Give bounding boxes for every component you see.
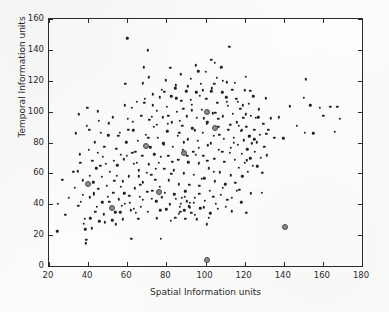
data-point [207, 144, 209, 146]
data-point [234, 82, 236, 84]
data-point [203, 177, 205, 179]
data-point [164, 191, 166, 193]
highlighted-data-point [109, 205, 115, 211]
data-point [201, 109, 203, 111]
data-point [97, 188, 99, 190]
data-point [240, 201, 242, 203]
data-point [156, 217, 158, 219]
x-axis-tick [323, 19, 324, 23]
data-point [186, 200, 188, 202]
data-point [195, 153, 197, 155]
data-point [234, 181, 236, 183]
data-point [312, 132, 314, 134]
data-point [85, 239, 87, 241]
data-point [170, 95, 172, 97]
data-point [197, 162, 199, 164]
y-axis-tick [49, 235, 53, 236]
data-point [245, 159, 247, 161]
data-point [79, 162, 81, 164]
data-point [209, 142, 211, 144]
data-point [198, 147, 200, 149]
data-point [131, 106, 133, 108]
data-point [193, 214, 195, 216]
data-point [83, 222, 85, 224]
data-point [157, 136, 159, 138]
data-point [213, 170, 215, 172]
y-axis-tick-label: 60 [33, 167, 44, 177]
data-point [257, 108, 259, 110]
data-point [134, 151, 136, 153]
data-point [226, 105, 228, 107]
y-axis-tick [49, 204, 53, 205]
data-point [103, 146, 105, 148]
data-point [159, 156, 161, 158]
data-point [77, 113, 79, 115]
data-point [166, 130, 168, 132]
data-point [165, 79, 167, 81]
x-axis-label: Spatial Information units [48, 287, 363, 297]
data-point [201, 132, 203, 134]
data-point [168, 179, 170, 181]
data-point [101, 201, 103, 203]
data-point [186, 138, 188, 140]
data-point [147, 136, 149, 138]
data-point [202, 117, 204, 119]
data-point [119, 211, 121, 213]
y-axis-tick [49, 50, 53, 51]
data-point [128, 175, 130, 177]
x-axis-tick [362, 19, 363, 23]
data-point [86, 107, 88, 109]
data-point [92, 181, 94, 183]
data-point [194, 129, 196, 131]
y-axis-tick [49, 173, 53, 174]
data-point [89, 174, 91, 176]
data-point [215, 203, 217, 205]
data-point [277, 116, 279, 118]
data-point [118, 131, 120, 133]
x-axis-tick [323, 262, 324, 266]
data-point [251, 164, 253, 166]
data-point [119, 186, 121, 188]
data-point [237, 166, 239, 168]
data-point [231, 210, 233, 212]
data-point [91, 160, 93, 162]
data-point [72, 171, 74, 173]
data-point [106, 184, 108, 186]
data-point [214, 180, 216, 182]
data-point [245, 113, 247, 115]
data-point [190, 99, 192, 101]
data-point [57, 203, 59, 205]
y-axis-tick [358, 235, 362, 236]
data-point [169, 67, 171, 69]
data-point [116, 175, 118, 177]
y-axis-tick [358, 50, 362, 51]
data-point [148, 119, 150, 121]
data-point [196, 218, 198, 220]
data-point [78, 153, 80, 155]
data-point [98, 120, 100, 122]
data-point [61, 178, 63, 180]
data-point [214, 111, 216, 113]
y-axis-tick-label: 0 [39, 260, 44, 270]
data-point [193, 202, 195, 204]
data-point [152, 126, 154, 128]
data-point [197, 70, 199, 72]
data-point [95, 167, 97, 169]
data-point [231, 89, 233, 91]
data-point [329, 106, 331, 108]
data-point [206, 160, 208, 162]
x-axis-tick-label: 40 [82, 270, 93, 280]
data-point [56, 230, 58, 232]
data-point [209, 212, 211, 214]
data-point [270, 117, 272, 119]
x-axis-tick [206, 19, 207, 23]
data-point [77, 205, 79, 207]
data-point [144, 97, 146, 99]
data-point [117, 135, 119, 137]
data-point [210, 59, 212, 61]
data-point [239, 107, 241, 109]
x-axis-tick-label: 120 [236, 270, 252, 280]
highlighted-data-point [181, 150, 187, 156]
x-axis-tick [166, 19, 167, 23]
data-point [215, 76, 217, 78]
